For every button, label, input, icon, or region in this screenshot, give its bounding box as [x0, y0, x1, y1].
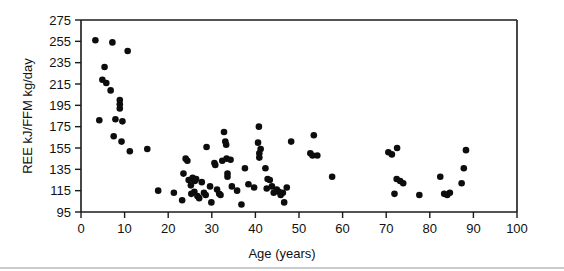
data-point [144, 146, 151, 153]
data-point [196, 195, 203, 202]
data-point [193, 176, 200, 183]
x-tick-label: 60 [335, 221, 349, 236]
data-point [262, 165, 269, 172]
x-tick-label: 10 [117, 221, 131, 236]
y-tick-label: 255 [49, 34, 71, 49]
x-tick-label: 90 [466, 221, 480, 236]
data-point [221, 129, 228, 136]
data-point [112, 116, 119, 123]
data-point [245, 181, 252, 188]
data-point [458, 180, 465, 187]
data-point [242, 165, 249, 172]
x-tick-label: 0 [77, 221, 84, 236]
data-point [227, 156, 234, 163]
data-point [224, 174, 231, 181]
chart-svg: 95115135155175195215235255275 0102030405… [0, 0, 564, 271]
y-axis-ticks: 95115135155175195215235255275 [49, 13, 81, 220]
data-point [400, 180, 407, 187]
data-point [212, 162, 219, 169]
y-tick-label: 235 [49, 55, 71, 70]
data-point [437, 174, 444, 181]
data-point [107, 87, 114, 94]
data-points-layer [92, 37, 469, 208]
data-point [110, 133, 117, 140]
data-point [288, 138, 295, 145]
plot-axes [81, 20, 517, 212]
y-tick-label: 115 [50, 183, 71, 198]
data-point [127, 148, 134, 155]
data-point [118, 138, 125, 145]
data-point [124, 48, 131, 55]
data-point [117, 105, 124, 112]
y-tick-label: 215 [49, 77, 71, 92]
data-point [109, 39, 116, 46]
data-point [463, 147, 470, 154]
data-point [229, 183, 236, 190]
data-point [394, 145, 401, 152]
data-point [251, 184, 258, 191]
data-point [256, 123, 263, 130]
y-axis-title: REE kJ/FFM kg/day [20, 58, 35, 174]
y-tick-label: 155 [49, 141, 71, 156]
data-point [257, 146, 264, 153]
y-tick-label: 95 [57, 205, 71, 220]
x-tick-label: 80 [423, 221, 437, 236]
x-axis-ticks: 0102030405060708090100 [77, 212, 527, 236]
data-point [223, 142, 230, 149]
data-point [92, 37, 99, 44]
data-point [179, 197, 186, 204]
x-tick-label: 30 [205, 221, 219, 236]
x-tick-label: 40 [248, 221, 262, 236]
data-point [238, 201, 245, 208]
data-point [202, 192, 209, 199]
x-tick-label: 20 [161, 221, 175, 236]
data-point [119, 118, 126, 125]
data-point [198, 179, 205, 186]
data-point [208, 199, 215, 206]
y-tick-label: 175 [49, 119, 71, 134]
data-point [184, 158, 191, 165]
x-tick-label: 50 [292, 221, 306, 236]
x-tick-label: 100 [506, 221, 528, 236]
data-point [389, 151, 396, 158]
data-point [281, 199, 288, 206]
data-point [329, 174, 336, 181]
data-point [461, 165, 468, 172]
y-tick-label: 195 [49, 98, 71, 113]
y-tick-label: 275 [49, 13, 71, 28]
data-point [234, 187, 241, 194]
data-point [255, 139, 262, 146]
data-point [280, 190, 287, 197]
data-point [203, 144, 210, 151]
data-point [96, 117, 103, 124]
data-point [101, 64, 108, 71]
data-point [447, 190, 454, 197]
data-point [283, 184, 290, 191]
data-point [266, 177, 273, 184]
data-point [171, 190, 178, 197]
data-point [188, 191, 195, 198]
data-point [314, 152, 321, 159]
x-tick-label: 70 [379, 221, 393, 236]
data-point [391, 191, 398, 198]
x-axis-title: Age (years) [248, 246, 315, 261]
data-point [180, 170, 187, 177]
y-tick-label: 135 [49, 162, 71, 177]
data-point [311, 132, 318, 139]
data-point [103, 80, 110, 87]
scatter-plot-figure: 95115135155175195215235255275 0102030405… [0, 0, 564, 271]
data-point [416, 192, 423, 199]
data-point [155, 187, 162, 194]
data-point [207, 183, 214, 190]
data-point [217, 192, 224, 199]
